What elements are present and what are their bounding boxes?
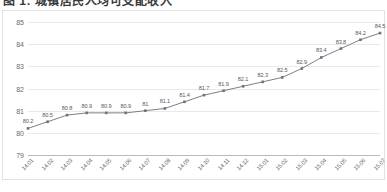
x-axis-tick-label: 14.01 [21,158,35,172]
data-point-label: 81.1 [160,100,171,106]
data-point-label: 80.8 [62,107,73,113]
series-line [28,33,380,128]
data-point-label: 82.9 [297,60,308,66]
x-axis-tick-label: 14.02 [41,158,55,172]
data-point-marker [164,107,167,110]
chart-frame: 79808182838485 80.280.580.880.980.980.98… [2,10,385,180]
data-point-marker [359,38,362,41]
data-point-marker [261,81,264,84]
x-axis-tick-label: 14.04 [80,158,94,172]
data-point-label: 81.9 [218,82,229,88]
data-point-marker [281,76,284,79]
data-point-label: 83.8 [336,40,347,46]
data-point-label: 81 [142,102,148,108]
data-point-label: 81.4 [179,93,190,99]
x-axis-tick-label: 15.03 [295,158,309,172]
y-axis-tick-label: 82 [16,85,24,92]
x-axis-tick-label: 14.09 [178,158,192,172]
y-axis-tick-label: 81 [16,107,24,114]
x-axis-tick-label: 15.02 [275,158,289,172]
x-axis-tick-label: 14.03 [60,158,74,172]
x-axis-labels: 14.0114.0214.0314.0414.0514.0614.0714.08… [28,158,380,184]
data-point-label: 83.4 [316,49,327,55]
data-point-label: 80.2 [23,120,34,126]
data-point-marker [46,120,49,123]
data-point-label: 80.9 [121,104,132,110]
data-point-label: 80.9 [101,104,112,110]
chart-title: 图 1: 城镇居民人均可支配收入 [3,0,172,8]
series-markers [27,32,382,130]
data-point-marker [27,127,30,130]
x-axis-tick-label: 15.04 [314,158,328,172]
y-axis-tick-label: 79 [16,152,24,159]
data-point-label: 84.5 [375,24,386,30]
data-point-marker [124,112,127,115]
data-point-marker [242,85,245,88]
data-point-marker [105,112,108,115]
x-axis-tick-label: 14.06 [119,158,133,172]
y-axis-tick-label: 83 [16,63,24,70]
data-point-label: 82.3 [257,73,268,79]
x-axis-tick-label: 14.10 [197,158,211,172]
data-point-marker [183,101,186,104]
y-axis-tick-label: 84 [16,41,24,48]
x-axis-tick-label: 14.05 [99,158,113,172]
x-axis-tick-label: 14.08 [158,158,172,172]
data-point-marker [379,32,382,35]
data-point-marker [222,89,225,92]
data-point-marker [300,67,303,70]
data-point-marker [85,112,88,115]
data-point-marker [66,114,69,117]
data-point-label: 81.7 [199,87,210,93]
data-point-marker [320,56,323,59]
x-axis-tick-label: 14.12 [236,158,250,172]
data-point-label: 82.5 [277,69,288,75]
x-axis-tick-label: 14.11 [217,158,231,172]
data-point-label: 82.1 [238,78,249,84]
x-axis-tick-label: 15.05 [334,158,348,172]
data-point-label: 80.9 [81,104,92,110]
chart-screenshot: 图 1: 城镇居民人均可支配收入 79808182838485 80.280.5… [0,0,387,192]
plot-area: 79808182838485 80.280.580.880.980.980.98… [28,22,380,155]
gridline [28,155,380,156]
x-axis-tick-label: 15.07 [373,158,387,172]
data-point-label: 84.2 [355,31,366,37]
x-axis-tick-label: 15.01 [256,158,270,172]
chart-title-strip: 图 1: 城镇居民人均可支配收入 [0,0,387,9]
data-point-marker [340,47,343,50]
x-axis-tick-label: 15.06 [354,158,368,172]
y-axis-tick-label: 80 [16,129,24,136]
x-axis-tick-label: 14.07 [138,158,152,172]
data-point-marker [203,94,206,97]
data-point-marker [144,109,147,112]
data-point-label: 80.5 [42,113,53,119]
y-axis-tick-label: 85 [16,19,24,26]
